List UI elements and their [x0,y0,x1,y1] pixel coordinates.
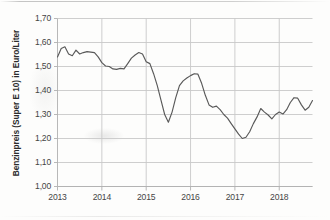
plot-area [0,0,330,220]
price-line-series [58,47,313,139]
axis-tick-marks [54,19,313,191]
horizontal-gridlines [58,19,313,187]
gas-price-line-chart: Benzinpreis (Super E 10) in Euro/Liter 1… [0,0,330,220]
vertical-gridlines [102,19,279,187]
